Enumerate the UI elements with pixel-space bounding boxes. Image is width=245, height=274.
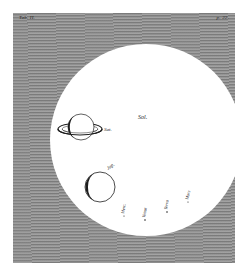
solar-comparison-diagram: Sol. Sat. Jup. Merc. Venus Terra Mars (0, 0, 245, 274)
earth-dot (166, 211, 168, 213)
jupiter (85, 172, 115, 202)
mercury-dot (123, 215, 124, 216)
mars-dot (187, 201, 188, 202)
venus-dot (144, 219, 146, 221)
sun-label: Sol. (138, 114, 147, 120)
saturn-label: Sat. (104, 127, 112, 132)
